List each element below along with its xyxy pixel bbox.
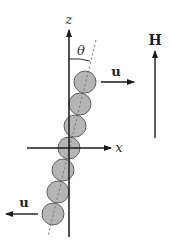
chain-diagram: z x θ u u H bbox=[0, 0, 171, 247]
z-axis-label: z bbox=[65, 12, 73, 27]
particle bbox=[42, 203, 64, 225]
theta-arc bbox=[69, 59, 90, 61]
particle bbox=[52, 159, 74, 181]
particle bbox=[47, 181, 69, 203]
x-axis-label: x bbox=[115, 140, 123, 155]
chain-axis-dashed-line bbox=[48, 40, 96, 236]
particle bbox=[64, 115, 86, 137]
field-label: H bbox=[148, 32, 161, 48]
velocity-label-bottom: u bbox=[19, 195, 28, 210]
particle bbox=[74, 71, 96, 93]
theta-label: θ bbox=[77, 43, 85, 58]
velocity-label-top: u bbox=[111, 64, 120, 79]
particle bbox=[69, 93, 91, 115]
